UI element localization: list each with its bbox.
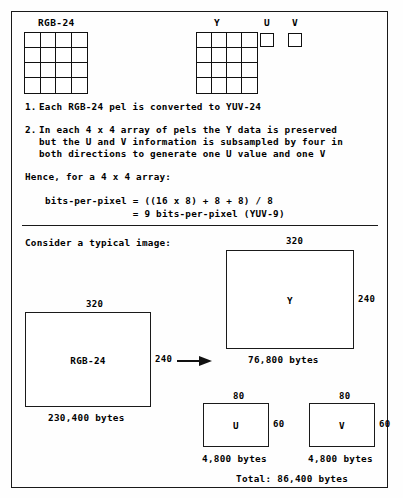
pel-cell	[197, 63, 212, 78]
pel-cell	[242, 63, 257, 78]
pel-cell	[41, 33, 57, 48]
u-box-width-label: 80	[233, 391, 244, 401]
pel-cell	[212, 63, 227, 78]
y-box-height-label: 240	[358, 294, 375, 304]
pel-cell	[41, 78, 57, 93]
v-box-bytes-caption: 4,800 bytes	[308, 453, 373, 464]
step-2-number: 2.	[25, 124, 37, 135]
y-image-box-label: Y	[227, 294, 353, 305]
pel-cell	[72, 63, 88, 78]
v-box-height-label: 60	[379, 419, 390, 429]
y-pel-grid	[196, 32, 258, 94]
rgb24-grid-label: RGB-24	[38, 17, 75, 28]
v-image-box: V	[309, 403, 375, 447]
y-image-box: Y	[226, 250, 354, 349]
conversion-arrow-icon	[177, 356, 215, 368]
pel-cell	[227, 33, 242, 48]
consider-heading: Consider a typical image:	[25, 237, 171, 250]
u-image-box-label: U	[204, 420, 268, 431]
pel-cell	[56, 48, 72, 63]
pel-cell	[41, 63, 57, 78]
step-1-number: 1.	[25, 101, 37, 112]
step-2-text-line-1: In each 4 x 4 array of pels the Y data i…	[39, 124, 337, 137]
pel-cell	[212, 78, 227, 93]
rgb-box-height-label: 240	[155, 354, 172, 364]
pel-cell	[212, 48, 227, 63]
pel-cell	[197, 33, 212, 48]
pel-cell	[56, 63, 72, 78]
rgb-image-box: RGB-24	[25, 312, 151, 407]
pel-cell	[212, 33, 227, 48]
pel-cell	[197, 48, 212, 63]
pel-cell	[227, 48, 242, 63]
rgb24-pel-grid	[24, 32, 88, 94]
pel-cell	[242, 33, 257, 48]
pel-cell	[227, 78, 242, 93]
u-image-box: U	[203, 403, 269, 447]
u-box-bytes-caption: 4,800 bytes	[202, 453, 267, 464]
pel-cell	[227, 63, 242, 78]
y-box-bytes-caption: 76,800 bytes	[248, 354, 319, 365]
pel-cell	[56, 33, 72, 48]
pel-cell	[72, 78, 88, 93]
pel-cell	[72, 48, 88, 63]
pel-cell	[72, 33, 88, 48]
pel-cell	[25, 33, 41, 48]
formula-line-2: = 9 bits-per-pixel (YUV-9)	[45, 208, 285, 221]
formula-line-1: bits-per-pixel = ((16 x 8) + 8 + 8) / 8	[45, 195, 273, 208]
section-divider	[22, 225, 378, 226]
pel-cell	[41, 48, 57, 63]
total-bytes-caption: Total: 86,400 bytes	[236, 473, 348, 484]
step-1-text: Each RGB-24 pel is converted to YUV-24	[39, 101, 261, 114]
pel-cell	[25, 48, 41, 63]
rgb-box-bytes-caption: 230,400 bytes	[48, 412, 125, 423]
pel-cell	[56, 78, 72, 93]
step-2-text-line-2: but the U and V information is subsample…	[39, 136, 343, 149]
pel-cell	[25, 78, 41, 93]
pel-cell	[25, 63, 41, 78]
y-box-width-label: 320	[286, 236, 303, 246]
step-2-text-line-3: both directions to generate one U value …	[39, 148, 326, 161]
pel-cell	[242, 78, 257, 93]
hence-line: Hence, for a 4 x 4 array:	[25, 171, 171, 184]
pel-cell	[197, 78, 212, 93]
u-cell-label: U	[264, 17, 270, 28]
u-single-cell	[260, 33, 274, 47]
rgb-box-width-label: 320	[86, 299, 103, 309]
v-cell-label: V	[292, 17, 298, 28]
pel-cell	[242, 48, 257, 63]
y-grid-label: Y	[214, 17, 220, 28]
v-single-cell	[288, 33, 302, 47]
u-box-height-label: 60	[273, 419, 284, 429]
slide-frame: RGB-24 Y	[11, 11, 388, 488]
rgb-image-box-label: RGB-24	[26, 354, 150, 365]
v-box-width-label: 80	[339, 391, 350, 401]
v-image-box-label: V	[310, 420, 374, 431]
slide-canvas: RGB-24 Y	[0, 0, 403, 498]
